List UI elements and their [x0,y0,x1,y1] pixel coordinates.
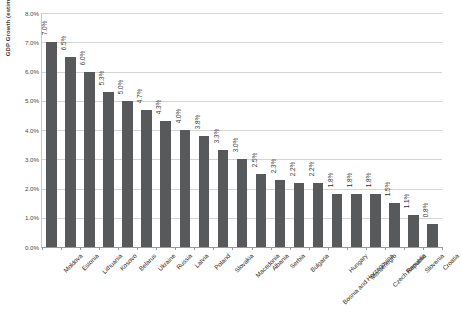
y-axis-tick-label: 2.0% [13,185,39,192]
bar-value-label: 3.8% [193,119,215,130]
x-axis-category-label: Moldova [61,252,83,274]
bar-slot: 4.3% [156,13,175,247]
bars-layer: 7.0%6.5%6.0%5.3%5.0%4.7%4.3%4.0%3.8%3.3%… [42,13,442,247]
y-axis-tick-label: 7.0% [13,39,39,46]
bar-slot: 5.3% [99,13,118,247]
x-axis-category-label: Ukraine [156,252,177,273]
bar[interactable] [389,203,400,247]
bar-slot: 1.1% [404,13,423,247]
x-axis-category-label: Latvia [193,252,211,270]
y-axis-tick-label: 6.0% [13,68,39,75]
bar-slot: 6.5% [61,13,80,247]
bar-slot: 3.3% [213,13,232,247]
bar-slot: 7.0% [42,13,61,247]
bar-value-label: 6.5% [60,40,82,51]
y-axis-tick-label: 4.0% [13,127,39,134]
bar-slot: 1.8% [328,13,347,247]
bar[interactable] [237,159,248,247]
bar[interactable] [408,215,419,247]
x-axis-category-label: Romania [405,252,428,275]
bar-slot: 3.0% [232,13,251,247]
x-axis-category-label: Serbia [288,252,307,271]
x-axis-category-label: Bulgaria [309,252,331,274]
bar[interactable] [141,110,152,247]
bar-slot: 6.0% [80,13,99,247]
y-axis-tick-labels: 8.0%7.0%6.0%5.0%4.0%3.0%2.0%1.0%0.0% [12,0,39,336]
bar[interactable] [180,130,191,247]
bar-slot: 3.8% [194,13,213,247]
bar[interactable] [256,174,267,247]
bar[interactable] [351,194,362,247]
x-axis-category-label: Poland [213,252,233,272]
bar[interactable] [294,183,305,247]
bar[interactable] [84,72,95,248]
bar-value-label: 6.0% [79,54,101,65]
bar-slot: 1.8% [347,13,366,247]
x-axis-category-label: Belarus [137,252,158,273]
x-axis-category-label: Slovakia [233,252,255,274]
bar-slot: 4.7% [137,13,156,247]
bar[interactable] [122,101,133,247]
bar[interactable] [313,183,324,247]
bar[interactable] [275,180,286,247]
bar-slot: 2.2% [309,13,328,247]
bar-slot: 4.0% [175,13,194,247]
bar[interactable] [199,136,210,247]
y-axis-tick-label: 0.0% [13,244,39,251]
plot-area: 7.0%6.5%6.0%5.3%5.0%4.7%4.3%4.0%3.8%3.3%… [41,13,442,248]
bar-slot: 0.8% [423,13,442,247]
bar-slot: 1.8% [366,13,385,247]
bar-slot: 2.5% [252,13,271,247]
bar-value-label: 0.8% [421,206,443,217]
bar[interactable] [218,150,229,247]
bar-slot: 2.2% [290,13,309,247]
bar[interactable] [370,194,381,247]
bar[interactable] [46,42,57,247]
bar-slot: 1.5% [385,13,404,247]
bar[interactable] [103,92,114,247]
x-axis-category-labels: MoldovaEstoniaLithuaniaKosovoBelarusUkra… [41,250,450,336]
bar-slot: 5.0% [118,13,137,247]
y-axis-tick-label: 1.0% [13,214,39,221]
x-axis-category-label: Croatia [441,252,461,272]
y-axis-tick-label: 3.0% [13,156,39,163]
x-axis-category-label: Hungary [347,252,369,274]
bar-value-label: 2.2% [307,165,329,176]
bar-value-label: 1.5% [383,186,405,197]
y-axis-tick-label: 8.0% [13,10,39,17]
x-axis-category-label: Russia [174,252,193,271]
y-axis-tick-label: 5.0% [13,97,39,104]
bar[interactable] [65,57,76,247]
bar-value-label: 7.0% [40,25,62,36]
bar-value-label: 3.0% [231,142,253,153]
bar[interactable] [160,121,171,247]
bar[interactable] [332,194,343,247]
bar[interactable] [427,224,438,247]
gridline [42,247,442,248]
bar-slot: 2.3% [271,13,290,247]
